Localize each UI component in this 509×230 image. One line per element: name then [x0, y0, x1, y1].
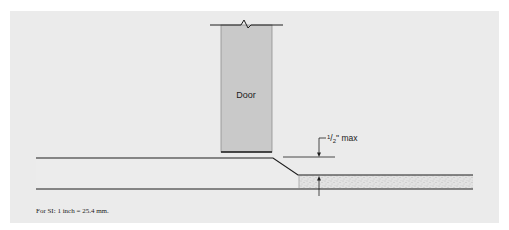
dimension-unit: " max [336, 133, 358, 143]
floor-surface [36, 158, 298, 189]
door-body [221, 25, 272, 152]
door-threshold-diagram: Door 1/2" max For SI: 1 inch = 25.4 mm. [0, 0, 509, 230]
lower-floor-fill [299, 175, 473, 189]
si-conversion-footnote: For SI: 1 inch = 25.4 mm. [36, 207, 109, 215]
door-label: Door [236, 90, 256, 100]
door [210, 20, 283, 152]
dimension-label: 1/2" max [327, 133, 358, 144]
